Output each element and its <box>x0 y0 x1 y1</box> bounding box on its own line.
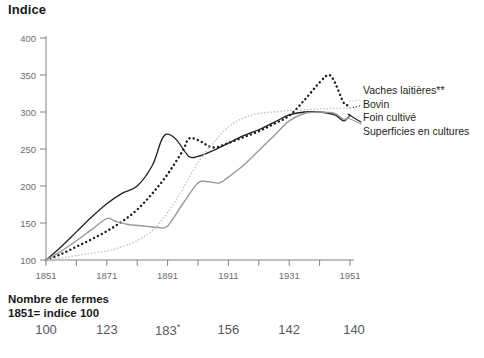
y-tick-label: 250 <box>20 144 36 155</box>
legend-line-stubs <box>348 100 362 124</box>
y-tick-label: 300 <box>20 107 36 118</box>
footer-value-marker: * <box>177 322 181 332</box>
footer-value-1911: 156 <box>218 322 240 337</box>
y-tick-label: 150 <box>20 218 36 229</box>
series-line-1 <box>46 112 350 260</box>
footer-value-1931: 142 <box>278 322 300 337</box>
legend-stub-0 <box>350 105 362 108</box>
x-axis-ticks <box>46 260 350 266</box>
legend-item-foin-cultive: Foin cultivé <box>363 111 469 125</box>
y-axis-tick-labels: 100150200250300350400 <box>20 33 36 266</box>
x-tick-label: 1911 <box>218 270 238 281</box>
legend-item-superficies-en-cultures: Superficies en cultures <box>363 125 469 139</box>
chart-series-layer <box>46 75 350 260</box>
x-axis-tick-labels: 185118711891191119311951 <box>35 270 360 281</box>
legend-stub-1 <box>350 100 362 101</box>
series-line-2 <box>46 112 350 260</box>
legend-item-bovin: Bovin <box>363 98 469 112</box>
footer-caption-line1: Nombre de fermes <box>8 292 109 306</box>
y-axis-ticks <box>40 38 46 260</box>
x-tick-label: 1951 <box>339 270 360 281</box>
footer-value-1951: 140 <box>343 322 365 337</box>
x-tick-label: 1931 <box>279 270 300 281</box>
footer-value-1851: 100 <box>35 322 57 337</box>
y-tick-label: 200 <box>20 181 36 192</box>
chart-page: Indice 100150200250300350400 18511871189… <box>0 0 484 358</box>
footer-caption: Nombre de fermes 1851= indice 100 <box>8 292 109 320</box>
footer-caption-line2: 1851= indice 100 <box>8 306 109 320</box>
x-tick-label: 1851 <box>35 270 56 281</box>
legend-item-vaches-laitieres: Vaches laitières** <box>363 84 469 98</box>
footer-value-1871: 123 <box>96 322 118 337</box>
x-tick-label: 1891 <box>157 270 178 281</box>
y-tick-label: 100 <box>20 255 36 266</box>
series-line-0 <box>46 75 350 260</box>
y-tick-label: 350 <box>20 70 36 81</box>
footer-values-row: 100123183*156142140 <box>0 322 484 344</box>
x-tick-label: 1871 <box>96 270 117 281</box>
y-tick-label: 400 <box>20 33 36 44</box>
chart-legend: Vaches laitières** Bovin Foin cultivé Su… <box>363 84 469 138</box>
footer-value-1891: 183* <box>155 322 180 338</box>
series-line-3 <box>46 108 350 260</box>
